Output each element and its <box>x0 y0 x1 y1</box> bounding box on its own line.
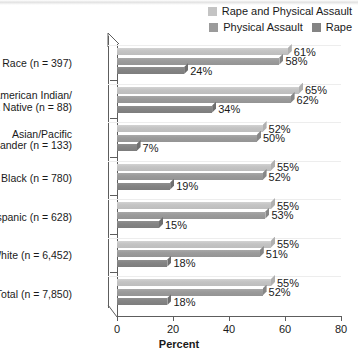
bar-face <box>117 58 279 65</box>
bar-0-group-1 <box>117 87 299 94</box>
bar-value-label: 58% <box>285 55 307 67</box>
bar-2-group-6 <box>117 298 167 305</box>
bar-face <box>117 164 271 171</box>
bar-0-group-3 <box>117 164 271 171</box>
bar-1-group-6 <box>117 289 263 296</box>
bar-chart: Rape and Physical Assault Physical Assau… <box>0 0 358 354</box>
group-separator <box>108 199 341 200</box>
bar-3d-cap <box>167 256 171 267</box>
bar-3d-cap <box>263 169 267 180</box>
bar-3d-cap <box>159 217 163 228</box>
y-axis-tick <box>110 118 118 119</box>
bar-value-label: 24% <box>190 65 212 77</box>
bar-value-label: 15% <box>165 219 187 231</box>
bar-1-group-5 <box>117 250 260 257</box>
x-axis-tick <box>117 316 118 321</box>
bar-face <box>117 96 291 103</box>
bar-face <box>117 279 271 286</box>
y-axis-tick <box>110 157 118 158</box>
bar-3d-cap <box>184 63 188 74</box>
bar-value-label: 18% <box>173 296 195 308</box>
bar-value-label: 50% <box>263 132 285 144</box>
bar-face <box>117 135 257 142</box>
bar-3d-cap <box>170 179 174 190</box>
x-axis-tick <box>285 316 286 321</box>
x-axis-tick-label: 0 <box>114 323 120 335</box>
bar-0-group-4 <box>117 202 271 209</box>
y-axis-back-line <box>108 36 109 308</box>
bar-value-label: 52% <box>269 171 291 183</box>
bar-1-group-2 <box>117 135 257 142</box>
bar-2-group-0 <box>117 67 184 74</box>
category-label-line: Alaska Native (n = 88) <box>0 102 72 114</box>
x-axis-tick-label: 80 <box>335 323 347 335</box>
bar-value-label: 18% <box>173 257 195 269</box>
bar-2-group-5 <box>117 260 167 267</box>
x-axis-tick <box>341 316 342 321</box>
x-axis-tick <box>229 316 230 321</box>
category-label-line: Total (n = 7,850) <box>0 289 72 301</box>
bar-2-group-1 <box>117 106 212 113</box>
category-label-line: Mixed Race (n = 397) <box>0 58 72 70</box>
x-axis-tick <box>173 316 174 321</box>
bar-face <box>117 125 263 132</box>
bar-value-label: 51% <box>266 248 288 260</box>
bar-face <box>117 202 271 209</box>
y-axis-tick <box>110 195 118 196</box>
bar-2-group-4 <box>117 221 159 228</box>
bar-value-label: 52% <box>269 286 291 298</box>
y-axis-tick <box>110 272 118 273</box>
bar-value-label: 53% <box>271 209 293 221</box>
bar-3d-cap <box>212 102 216 113</box>
bar-0-group-5 <box>117 241 271 248</box>
bar-face <box>117 260 167 267</box>
bar-face <box>117 298 167 305</box>
bar-face <box>117 106 212 113</box>
bar-0-group-6 <box>117 279 271 286</box>
category-label-line: Islander (n = 133) <box>0 140 72 152</box>
x-axis-tick-label: 20 <box>167 323 179 335</box>
bar-3d-cap <box>291 92 295 103</box>
bar-face <box>117 48 288 55</box>
y-axis-tick <box>110 234 118 235</box>
bar-face <box>117 67 184 74</box>
bar-3d-cap <box>265 208 269 219</box>
bar-2-group-3 <box>117 183 170 190</box>
bar-face <box>117 212 265 219</box>
bar-face <box>117 221 159 228</box>
bar-value-label: 19% <box>176 180 198 192</box>
bar-face <box>117 173 263 180</box>
bar-0-group-0 <box>117 48 288 55</box>
group-separator <box>108 238 341 239</box>
bar-face <box>117 144 137 151</box>
bar-3d-cap <box>260 246 264 257</box>
bar-3d-cap <box>137 140 141 151</box>
category-label: Hispanic (n = 628) <box>0 212 72 224</box>
bar-1-group-1 <box>117 96 291 103</box>
bar-0-group-2 <box>117 125 263 132</box>
group-separator <box>108 122 341 123</box>
x-axis-tick-label: 40 <box>223 323 235 335</box>
category-label-line: Hispanic (n = 628) <box>0 212 72 224</box>
bar-face <box>117 250 260 257</box>
category-label: Total (n = 7,850) <box>0 289 72 301</box>
category-label: American Indian/Alaska Native (n = 88) <box>0 90 72 113</box>
x-axis-title: Percent <box>0 338 358 350</box>
category-label: Black (n = 780) <box>1 173 72 185</box>
bar-3d-cap <box>167 294 171 305</box>
bar-face <box>117 183 170 190</box>
bar-1-group-4 <box>117 212 265 219</box>
bar-3d-cap <box>257 131 261 142</box>
bar-face <box>117 289 263 296</box>
bar-value-label: 62% <box>297 94 319 106</box>
x-axis-tick-label: 60 <box>279 323 291 335</box>
category-label: Asian/PacificIslander (n = 133) <box>0 129 72 152</box>
group-separator <box>108 276 341 277</box>
plot-area: 020406080Mixed Race (n = 397)61%58%24%Am… <box>0 0 358 354</box>
category-label: White (n = 6,452) <box>0 250 72 262</box>
bar-3d-cap <box>279 54 283 65</box>
bar-value-label: 34% <box>218 103 240 115</box>
category-label-line: Black (n = 780) <box>1 173 72 185</box>
category-label: Mixed Race (n = 397) <box>0 58 72 70</box>
bar-1-group-3 <box>117 173 263 180</box>
